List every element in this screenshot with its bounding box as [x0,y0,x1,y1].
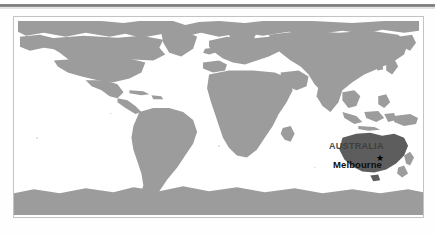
figure-page: AUSTRALIA Melbourne ★ [0,0,435,235]
land-korea [376,64,383,71]
scan-speck [314,167,316,168]
land-antarctica [14,186,423,215]
scan-speck [36,137,38,139]
map-canvas [14,17,423,217]
scan-speck [218,145,220,147]
scan-speck [110,113,112,114]
world-map-svg [14,17,423,217]
page-top-rule-shadow [0,7,435,9]
melbourne-marker-icon: ★ [376,155,383,162]
map-frame [13,16,424,218]
